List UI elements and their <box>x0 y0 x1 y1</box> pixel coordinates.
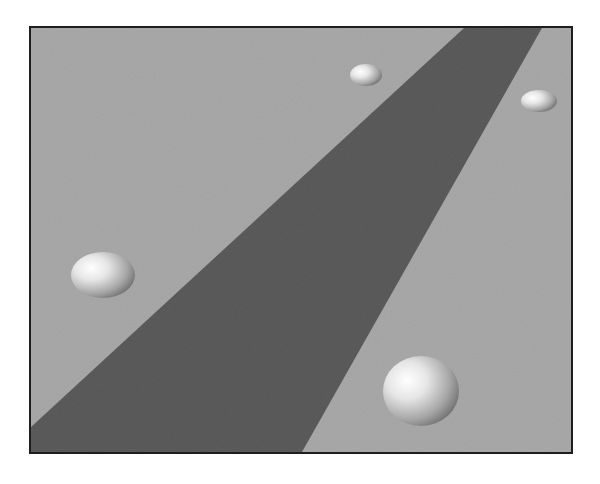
small-top-right-sphere <box>521 90 557 112</box>
small-top-middle-sphere <box>350 64 382 86</box>
large-front-sphere <box>383 356 459 426</box>
scene-frame: Rendered scene: spheres on a plane with … <box>29 26 573 454</box>
left-sphere <box>71 252 135 298</box>
rendered-scene <box>31 28 571 452</box>
